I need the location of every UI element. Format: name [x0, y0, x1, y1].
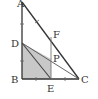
label-e: E [47, 83, 54, 94]
label-b: B [11, 74, 18, 85]
label-d: D [11, 38, 19, 49]
label-f: F [53, 29, 60, 40]
geometry-diagram: A B C D E F P [0, 0, 98, 99]
label-c: C [81, 74, 89, 85]
label-a: A [16, 0, 25, 9]
label-p: P [53, 53, 60, 64]
